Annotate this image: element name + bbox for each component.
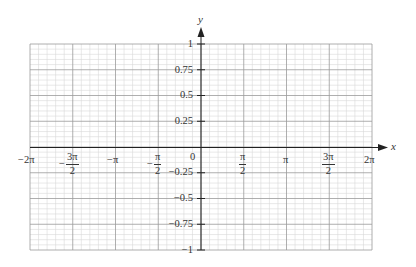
x-tick-neg-pi-2-den: 2 [155, 165, 160, 177]
x-tick-neg-pi: −π [107, 155, 118, 166]
y-tick-0-5: 0.5 [180, 90, 193, 101]
y-tick-neg-0-25: −0.25 [169, 167, 193, 178]
x-tick-neg-pi-2-num: π [154, 152, 161, 165]
y-axis-arrow-icon [198, 27, 205, 37]
x-axis-label: x [391, 140, 396, 152]
x-tick-3pi-2-num: 3π [322, 152, 335, 165]
origin-label: 0 [190, 152, 195, 163]
x-tick-pi: π [283, 155, 288, 166]
x-tick-pi-2-num: π [239, 152, 246, 165]
x-tick-neg-3pi-2: 3π 2 [66, 152, 79, 176]
y-tick-1: 1 [188, 39, 193, 50]
y-tick-0-25: 0.25 [175, 116, 193, 127]
x-axis-arrow-icon [378, 144, 388, 151]
y-tick-neg-0-75: −0.75 [169, 219, 193, 230]
x-tick-pi-2-den: 2 [240, 165, 245, 177]
x-tick-3pi-2-den: 2 [326, 165, 331, 177]
x-tick-neg-pi-2: π 2 [154, 152, 161, 176]
x-tick-pi-2: π 2 [239, 152, 246, 176]
x-tick-neg-2pi: −2π [18, 155, 34, 166]
x-tick-2pi: 2π [364, 155, 375, 166]
y-tick-neg-1: −1 [182, 245, 193, 256]
axes [30, 27, 388, 250]
y-axis-label: y [198, 13, 203, 25]
x-tick-3pi-2: 3π 2 [322, 152, 335, 176]
graph-paper-plot [0, 0, 416, 267]
x-tick-neg-3pi-2-num: 3π [66, 152, 79, 165]
y-tick-neg-0-5: −0.5 [174, 193, 193, 204]
y-tick-0-75: 0.75 [175, 65, 193, 76]
x-tick-neg-3pi-2-den: 2 [70, 165, 75, 177]
x-tick-neg-3pi-2-sign: − [59, 158, 65, 169]
x-tick-neg-pi-2-sign: − [147, 158, 153, 169]
